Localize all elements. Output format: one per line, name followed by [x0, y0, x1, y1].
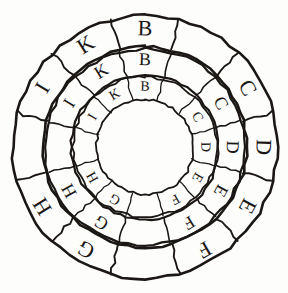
ring-cell-letter: I [29, 78, 54, 97]
ring-cell-letter: D [223, 140, 243, 153]
volvelle-figure: BCDEFGHIKBCDEFGHIKBCDEFGHIK [0, 0, 288, 293]
ring-cell-letter: C [189, 109, 207, 124]
ring-cell-letter: H [83, 169, 101, 185]
ring-cell-letter: E [210, 181, 233, 200]
ring-cell-letter: K [90, 59, 112, 83]
ring-cell-letter: E [189, 170, 206, 185]
ring-cell-letter: G [107, 191, 123, 209]
ring-cell-letter: F [179, 212, 198, 234]
ring-cell-letter: B [137, 15, 152, 40]
ring-cell-letter: H [57, 180, 81, 201]
ring-cell-letter: B [140, 79, 150, 94]
ring-cell-letter: D [251, 139, 276, 156]
ring-cell-letter: D [198, 142, 213, 152]
ring-cell-letter: G [73, 235, 99, 265]
ring-cell-letter: C [234, 75, 263, 100]
volvelle-diagram: BCDEFGHIKBCDEFGHIKBCDEFGHIK [0, 0, 288, 293]
ring-cell-letter: I [85, 111, 100, 123]
ring-cell-letter: I [59, 95, 79, 111]
ring-cell-letter: K [106, 85, 122, 103]
ring-cell-letter: B [139, 49, 152, 69]
ring-cell-letter: K [72, 29, 99, 59]
ring-cell-letter: C [209, 93, 232, 113]
ring-cell-letter: F [193, 236, 216, 264]
ring-cell-letter: F [168, 191, 182, 208]
ring-cell-letter: E [234, 195, 262, 219]
